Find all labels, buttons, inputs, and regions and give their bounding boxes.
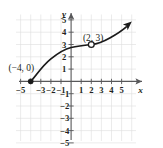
y-tick-label-1: 1 — [62, 64, 66, 74]
y-tick-label-4: 4 — [62, 27, 67, 37]
grid-vertical — [21, 15, 132, 142]
x-axis-label: x — [137, 85, 143, 95]
x-tick-label-2: 2 — [89, 85, 93, 95]
y-tick-label-neg5: −5 — [60, 138, 69, 148]
x-tick-label-3: 3 — [99, 85, 103, 95]
y-tick-label-neg3: −3 — [60, 113, 69, 123]
y-tick-label-3: 3 — [62, 40, 66, 50]
y-tick-label-2: 2 — [62, 52, 66, 62]
y-tick-label-neg4: −4 — [60, 126, 70, 136]
y-tick-label-neg1: −1 — [60, 89, 69, 99]
x-tick-label-neg2: −2 — [46, 85, 55, 95]
closed-point-marker — [28, 79, 33, 84]
x-tick-label-neg5: −5 — [16, 85, 25, 95]
x-tick-label-neg3: −3 — [36, 85, 45, 95]
point-label-a: (−4, 0) — [9, 63, 35, 74]
x-tick-label-4: 4 — [109, 85, 114, 95]
x-tick-label-1: 1 — [79, 85, 83, 95]
y-tick-label-neg2: −2 — [60, 101, 69, 111]
x-tick-label-5: 5 — [119, 85, 123, 95]
graph-figure: −5 −3 −2 −1 1 2 3 4 5 5 4 3 2 1 −1 −2 −3… — [0, 0, 163, 148]
point-label-b: (2, 3) — [83, 33, 103, 44]
x-tick-labels: −5 −3 −2 −1 1 2 3 4 5 — [16, 85, 124, 95]
